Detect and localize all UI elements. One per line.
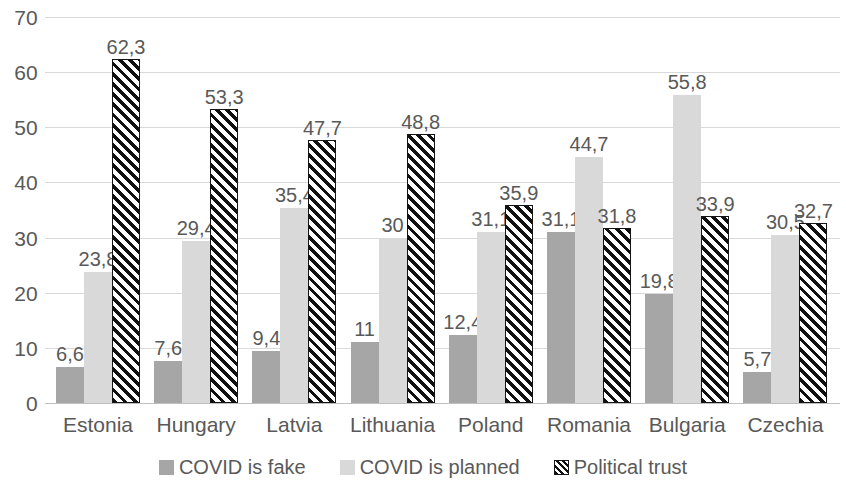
bar[interactable]: 55,8 [673,95,701,403]
bar[interactable]: 30 [379,238,407,403]
bar-value-label: 32,7 [794,201,833,221]
bar-value-label: 9,4 [252,328,280,348]
bar-value-label: 11 [354,319,375,339]
bar-value-label: 35,9 [499,183,538,203]
x-axis-label-lithuania: Lithuania [343,412,443,438]
bar-value-label: 6,6 [56,344,84,364]
bar[interactable]: 30,5 [771,235,799,403]
bar[interactable]: 35,9 [505,205,533,403]
bar-value-label: 55,8 [668,72,707,92]
x-axis-label-estonia: Estonia [48,412,148,438]
y-axis-tick-label: 10 [0,338,38,359]
x-axis-label-romania: Romania [539,412,639,438]
bar-value-label: 44,7 [570,134,609,154]
gridline [45,403,840,404]
y-axis-tick-label: 20 [0,283,38,304]
bar-value-label: 5,7 [743,349,771,369]
bar-group: 9,435,447,7 [252,17,336,403]
bar[interactable]: 12,4 [449,335,477,403]
bar[interactable]: 35,4 [280,208,308,403]
bar-group: 31,144,731,8 [547,17,631,403]
bar[interactable]: 23,8 [84,272,112,403]
x-axis-category-labels: EstoniaHungaryLatviaLithuaniaPolandRoman… [45,412,840,442]
bar[interactable]: 31,1 [477,232,505,403]
bar-value-label: 7,6 [154,338,182,358]
bar[interactable]: 9,4 [252,351,280,403]
bar-value-label: 33,9 [696,194,735,214]
legend-swatch-icon [340,460,355,475]
bar-group: 7,629,453,3 [154,17,238,403]
x-axis-label-latvia: Latvia [244,412,344,438]
bar[interactable]: 29,4 [182,241,210,403]
bar[interactable]: 62,3 [112,59,140,403]
bar[interactable]: 7,6 [154,361,182,403]
y-axis-tick-label: 40 [0,172,38,193]
plot-area: 6,623,862,37,629,453,39,435,447,7113048,… [45,17,840,403]
legend-item-1[interactable]: COVID is planned [340,457,520,477]
y-axis-tick-label: 60 [0,62,38,83]
bar[interactable]: 31,1 [547,232,575,403]
bar[interactable]: 44,7 [575,157,603,403]
bar-group: 5,730,532,7 [743,17,827,403]
bar[interactable]: 6,6 [56,367,84,403]
bar-value-label: 53,3 [205,87,244,107]
bar[interactable]: 19,8 [645,294,673,403]
bar-group: 113048,8 [351,17,435,403]
bar-group: 12,431,135,9 [449,17,533,403]
y-axis-tick-label: 0 [0,393,38,414]
x-axis-label-poland: Poland [441,412,541,438]
bar-group: 19,855,833,9 [645,17,729,403]
x-axis-label-bulgaria: Bulgaria [637,412,737,438]
legend-label: COVID is fake [179,457,306,477]
legend-label: COVID is planned [360,457,520,477]
y-axis-tick-label: 70 [0,7,38,28]
legend-swatch-icon [159,460,174,475]
legend-item-2[interactable]: Political trust [554,457,687,477]
bar[interactable]: 31,8 [603,228,631,403]
y-axis-tick-label: 50 [0,117,38,138]
bar[interactable]: 53,3 [210,109,238,403]
bar[interactable]: 11 [351,342,379,403]
bar[interactable]: 48,8 [407,134,435,403]
legend-swatch-icon [554,460,569,475]
legend-label: Political trust [574,457,687,477]
legend-item-0[interactable]: COVID is fake [159,457,306,477]
bar-value-label: 30 [381,215,403,235]
bar-value-label: 47,7 [303,118,342,138]
bar-value-label: 48,8 [401,112,440,132]
bar-group: 6,623,862,3 [56,17,140,403]
chart-legend: COVID is fakeCOVID is plannedPolitical t… [0,452,846,482]
bar[interactable]: 32,7 [799,223,827,403]
bar[interactable]: 47,7 [308,140,336,403]
bar-chart: 010203040506070 6,623,862,37,629,453,39,… [0,0,846,486]
bar[interactable]: 5,7 [743,372,771,403]
x-axis-label-czechia: Czechia [735,412,835,438]
x-axis-label-hungary: Hungary [146,412,246,438]
bar[interactable]: 33,9 [701,216,729,403]
y-axis-tick-label: 30 [0,228,38,249]
bar-value-label: 62,3 [107,37,146,57]
bar-value-label: 31,8 [598,206,637,226]
